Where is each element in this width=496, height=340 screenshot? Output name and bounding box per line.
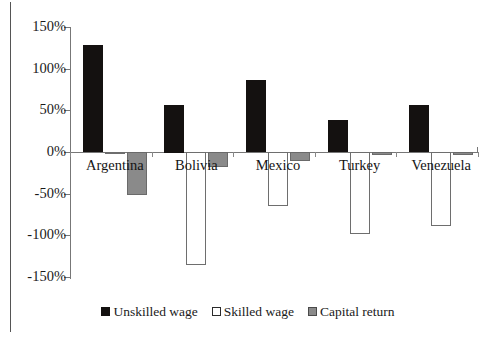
legend-item-skilled-wage[interactable]: Skilled wage bbox=[212, 305, 294, 319]
category-label-argentina: Argentina bbox=[70, 158, 160, 174]
y-tick-label: 100% bbox=[6, 61, 66, 76]
bar-turkey-capital-return bbox=[372, 152, 392, 155]
legend-item-unskilled-wage[interactable]: Unskilled wage bbox=[101, 305, 197, 319]
legend-label: Capital return bbox=[320, 305, 395, 319]
y-tick-label: -100% bbox=[6, 227, 66, 242]
x-tick-mark bbox=[152, 152, 153, 157]
bar-venezuela-unskilled-wage bbox=[409, 105, 429, 152]
legend-swatch-icon bbox=[101, 307, 110, 316]
x-tick-mark bbox=[315, 152, 316, 157]
legend-label: Skilled wage bbox=[224, 305, 294, 319]
y-tick-label: 150% bbox=[6, 19, 66, 34]
y-tick-label: 0% bbox=[6, 144, 66, 159]
chart-figure: 150%100%50%0%-50%-100%-150% ArgentinaBol… bbox=[0, 0, 496, 340]
y-tick-label: -50% bbox=[6, 186, 66, 201]
x-tick-mark bbox=[70, 152, 71, 157]
legend-label: Unskilled wage bbox=[113, 305, 197, 319]
category-label-bolivia: Bolivia bbox=[151, 158, 241, 174]
bar-turkey-unskilled-wage bbox=[328, 120, 348, 152]
y-tick-label: 50% bbox=[6, 102, 66, 117]
category-label-turkey: Turkey bbox=[315, 158, 405, 174]
bar-venezuela-capital-return bbox=[453, 152, 473, 155]
bar-argentina-skilled-wage bbox=[105, 152, 125, 154]
bar-argentina-unskilled-wage bbox=[83, 45, 103, 152]
legend-swatch-icon bbox=[308, 307, 317, 316]
chart-legend: Unskilled wageSkilled wageCapital return bbox=[0, 305, 496, 319]
x-tick-mark bbox=[478, 152, 479, 157]
x-tick-mark bbox=[396, 152, 397, 157]
bar-mexico-unskilled-wage bbox=[246, 80, 266, 152]
bar-bolivia-unskilled-wage bbox=[164, 105, 184, 153]
y-tick-label: -150% bbox=[6, 269, 66, 284]
legend-swatch-icon bbox=[212, 307, 221, 316]
category-label-mexico: Mexico bbox=[233, 158, 323, 174]
legend-item-capital-return[interactable]: Capital return bbox=[308, 305, 395, 319]
x-tick-mark bbox=[233, 152, 234, 157]
category-label-venezuela: Venezuela bbox=[396, 158, 486, 174]
